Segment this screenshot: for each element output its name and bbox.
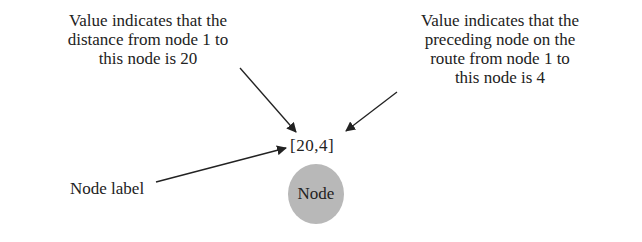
- distance-arrow: [240, 68, 296, 132]
- distance-caption-line: distance from node 1 to: [28, 30, 268, 49]
- distance-caption: Value indicates that the distance from n…: [28, 11, 268, 68]
- predecessor-caption-line: route from node 1 to: [380, 49, 620, 68]
- node-label-caption: Node label: [70, 179, 144, 199]
- node-value-label: [20,4]: [290, 136, 334, 156]
- node-label-arrow: [156, 148, 286, 182]
- predecessor-caption-line: preceding node on the: [380, 30, 620, 49]
- predecessor-caption-line: this node is 4: [380, 68, 620, 87]
- predecessor-arrow: [346, 92, 397, 131]
- node-text: Node: [298, 184, 335, 204]
- node-circle: Node: [288, 164, 344, 224]
- predecessor-caption-line: Value indicates that the: [380, 11, 620, 30]
- distance-caption-line: this node is 20: [28, 49, 268, 68]
- predecessor-caption: Value indicates that the preceding node …: [380, 11, 620, 87]
- distance-caption-line: Value indicates that the: [28, 11, 268, 30]
